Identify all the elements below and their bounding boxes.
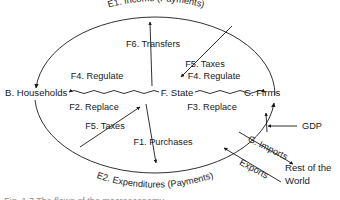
flow-label-regulate-firms: F4. Regulate [188, 71, 241, 81]
arrow-taxes-firms [181, 26, 232, 77]
node-label-firms: C. Firms [244, 87, 280, 98]
arc-firms-to-income [155, 17, 275, 95]
flow-label-exports: Exports [238, 157, 271, 181]
flow-label-replace-households: F2. Replace [69, 102, 119, 112]
arrow-purchases [146, 104, 156, 163]
flow-label-gdp: GDP [302, 121, 322, 131]
flow-label-taxes-firms: F5. Taxes [185, 59, 225, 69]
flow-label-transfers: F6. Transfers [126, 39, 181, 49]
flow-label-replace-firms: F3. Replace [187, 102, 237, 112]
node-label-state: F. State [161, 87, 194, 98]
flow-label-income: E1. Income (Payments) [106, 0, 205, 9]
node-label-households: B. Households [5, 87, 68, 98]
flow-label-regulate-households: F4. Regulate [71, 71, 124, 81]
node-label-rest-of-world-line2: World [285, 175, 310, 186]
figure-caption: Fig. 1.7 The flows of the macroeconomy [4, 197, 184, 200]
arrow-firms-inflow [266, 113, 267, 132]
diagram-canvas: E1. Income (Payments) E2. Expenditures (… [0, 0, 340, 200]
node-label-rest-of-world-line1: Rest of the [285, 162, 331, 173]
flow-label-imports: G. Imports [246, 134, 289, 162]
flow-label-purchases: F1. Purchases [133, 137, 193, 147]
circular-flow-svg: E1. Income (Payments) E2. Expenditures (… [0, 0, 340, 200]
wavy-arrow-state-to-households [69, 91, 159, 94]
arrow-transfers [150, 22, 152, 86]
flow-label-taxes-households: F5. Taxes [85, 121, 125, 131]
